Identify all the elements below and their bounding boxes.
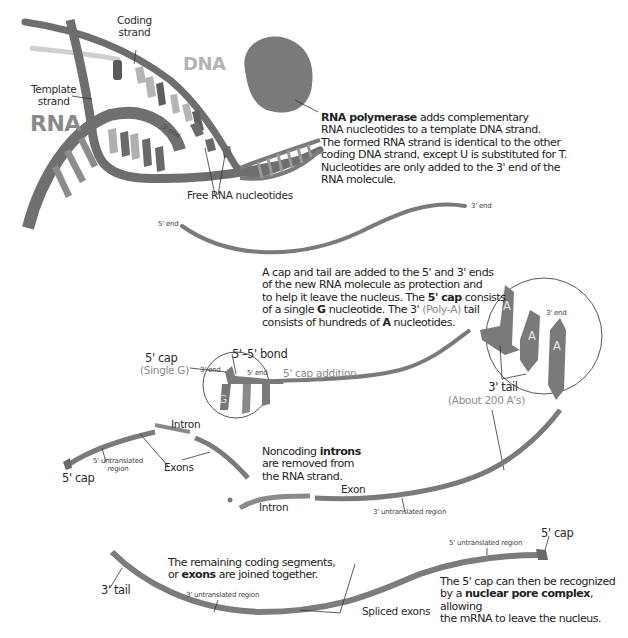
five-five-bond-label: 5'–5' bond (232, 348, 287, 361)
single-g-label: (Single G) (140, 365, 189, 377)
cap-desc-line5: consists of hundreds of A nucleotides. (262, 317, 505, 329)
cap-desc-line4-mid: nucleotide. The 3' (326, 303, 423, 316)
export-desc-line3: the mRNA to leave the nucleus. (440, 613, 628, 625)
cap-base-g: G (219, 394, 227, 406)
export-desc-line2: by a nuclear pore complex, allowing (440, 588, 628, 613)
introns-term: introns (320, 445, 361, 458)
cap-addition-label: 5' cap addition (283, 368, 356, 380)
cap-desc-line5-post: nucleotides. (390, 316, 455, 329)
desc-line2: RNA nucleotides to a template DNA strand… (321, 124, 567, 136)
about-200-label: (About 200 A's) (448, 395, 525, 407)
rna-label: RNA (30, 112, 81, 137)
joined-desc-line2-post: are joined together. (216, 568, 318, 581)
splice-five-cap-label: 5' cap (62, 472, 94, 485)
coding-strand-base (113, 60, 122, 80)
cap-desc-line4-post: tail (461, 303, 479, 316)
desc-line6: RNA molecule. (321, 174, 567, 186)
rna-molecule-strand (182, 204, 465, 252)
tail-base-a-1: A (503, 300, 510, 313)
rna-molecule-five-end: 5' end (158, 221, 179, 229)
joined-desc-line2-pre: or (168, 568, 181, 581)
exon-label: Exon (341, 484, 365, 496)
exons-label: Exons (164, 462, 194, 474)
template-strand-label: Template strand (31, 84, 77, 108)
cap-tail-description: A cap and tail are added to the 5' and 3… (262, 267, 505, 329)
cap-three-end-label: 3' end (200, 367, 221, 375)
three-tail-label: 3' tail (468, 381, 538, 394)
export-description: The 5' cap can then be recognized by a n… (440, 576, 628, 626)
five-utr-label: 5' untranslated region (86, 458, 150, 474)
cap-magnifier-circle (203, 352, 269, 418)
coding-strand-label: Coding strand (117, 15, 152, 39)
rna-molecule-three-end: 3' end (471, 203, 492, 211)
spliced-exons-label: Spliced exons (362, 606, 430, 618)
nuclear-pore-complex-term: nuclear pore complex (465, 587, 590, 600)
splice-desc-line3: the RNA strand. (262, 471, 361, 483)
coding-strand-line1: Coding (117, 15, 152, 27)
rna-polymerase-term: RNA polymerase (321, 111, 417, 124)
five-cap-term: 5' cap (428, 291, 462, 304)
mature-three-utr-label: 3' untranslated region (186, 592, 259, 600)
export-desc-line2-pre: by a (440, 587, 465, 600)
mature-five-utr-label: 5' untranslated region (449, 540, 522, 548)
coding-strand-line2: strand (117, 27, 152, 39)
desc-line4: coding DNA strand, except U is substitut… (321, 149, 567, 161)
rna-polymerase-blob (244, 37, 312, 113)
mature-five-cap-label: 5' cap (541, 527, 573, 540)
three-utr-label: 3' untranslated region (373, 509, 446, 517)
intron-bottom-label: Intron (259, 502, 288, 514)
cap-desc-line4-pre: of a single (262, 303, 317, 316)
poly-a-term: (Poly-A) (422, 303, 461, 316)
dna-label: DNA (183, 54, 225, 74)
transcription-description: RNA polymerase adds complementary RNA nu… (321, 112, 567, 186)
template-strand-line2: strand (31, 96, 77, 108)
g-term: G (317, 303, 326, 316)
intron-top-label: Intron (171, 419, 200, 431)
cap-desc-line3-pre: to help it leave the nucleus. The (262, 291, 428, 304)
exons-term: exons (181, 568, 215, 581)
cap-five-end-label: 5' end (247, 370, 268, 378)
tail-three-end-label: 3' end (546, 310, 567, 318)
tail-base-a-2: A (528, 330, 535, 343)
free-nucleotides-label: Free RNA nucleotides (187, 190, 293, 202)
splice-desc-line1-pre: Noncoding (262, 445, 320, 458)
joined-desc-line2: or exons are joined together. (168, 569, 335, 581)
tail-base-a-3: A (553, 340, 560, 353)
splicing-description: Noncoding introns are removed from the R… (262, 446, 361, 483)
cap-desc-line5-pre: consists of hundreds of (262, 316, 382, 329)
desc-line1-rest: adds complementary (417, 111, 529, 124)
splice-desc-line2: are removed from (262, 458, 361, 470)
five-cap-label: 5' cap (145, 352, 177, 365)
joined-description: The remaining coding segments, or exons … (168, 557, 335, 582)
five-utr-line2: region (86, 466, 150, 474)
mature-three-tail-label: 3' tail (101, 584, 130, 597)
template-strand-line1: Template (31, 84, 77, 96)
cap-desc-line3-post: consists (462, 291, 506, 304)
